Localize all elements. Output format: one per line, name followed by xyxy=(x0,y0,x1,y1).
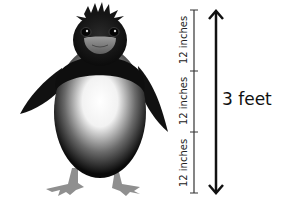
scale-bar xyxy=(190,10,198,193)
total-height-label: 3 feet xyxy=(222,89,272,109)
head xyxy=(73,2,127,66)
height-arrow xyxy=(209,11,223,193)
left-eye xyxy=(81,28,91,37)
segment-label-middle: 12 inches xyxy=(178,71,190,131)
segment-label-top: 12 inches xyxy=(178,10,190,70)
segment-label-bottom: 12 inches xyxy=(178,133,190,193)
left-foot xyxy=(46,168,84,196)
right-eye xyxy=(109,28,119,37)
penguin-height-diagram: 12 inches 12 inches 12 inches 3 feet xyxy=(0,0,283,213)
